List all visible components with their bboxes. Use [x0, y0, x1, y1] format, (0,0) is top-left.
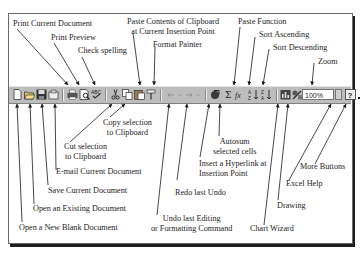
label-hyperlink-line2: Insertion Point [199, 169, 267, 179]
label-autosum-line1: Autosum [213, 137, 256, 147]
toolbar-separator [105, 89, 107, 101]
printer-icon[interactable] [67, 89, 78, 100]
label-paste-contents: Paste Contents of Clipboard at Current I… [127, 17, 219, 36]
paintbrush-icon[interactable] [146, 89, 157, 100]
svg-text:A: A [261, 96, 264, 101]
spell-check-icon[interactable]: ABC [91, 89, 102, 100]
label-sort-ascending: Sort Ascending [259, 30, 309, 40]
toolbar-separator [160, 89, 162, 101]
svg-text:A: A [248, 90, 251, 95]
label-copy-selection: Copy selection to Clipboard [103, 118, 152, 137]
email-icon[interactable] [48, 89, 59, 100]
label-autosum: Autosum selected cells [213, 137, 256, 156]
redo-arrow-icon[interactable] [184, 89, 202, 100]
undo-arrow-icon[interactable] [165, 89, 183, 100]
copy-icon[interactable] [122, 89, 133, 100]
label-cut-line1: Cut selection [64, 142, 107, 152]
label-paste-function: Paste Function [238, 17, 286, 27]
label-format-painter: Format Painter [153, 40, 202, 50]
label-autosum-line2: selected cells [213, 147, 256, 157]
label-insert-hyperlink: Insert a Hyperlink at Insertion Point [199, 159, 267, 178]
zoom-input[interactable]: 100% [302, 89, 334, 100]
fx-function-icon[interactable]: fx [235, 89, 246, 100]
svg-text:Z: Z [248, 96, 251, 101]
toolbar-separator [62, 89, 64, 101]
hyperlink-globe-icon[interactable] [210, 89, 221, 100]
standard-toolbar: ABC Σ fx AZ ZA 100% ? [9, 86, 351, 104]
label-drawing: Drawing [277, 201, 306, 211]
label-print-preview: Print Preview [51, 33, 96, 43]
sort-ascending-icon[interactable]: AZ [248, 89, 260, 100]
label-copy-line1: Copy selection [103, 118, 152, 128]
label-copy-line2: to Clipboard [103, 128, 152, 138]
sigma-icon[interactable]: Σ [223, 89, 234, 100]
svg-text:fx: fx [235, 91, 241, 100]
label-cut-selection: Cut selection to Clipboard [64, 142, 107, 161]
label-sort-descending: Sort Descending [273, 43, 327, 53]
open-folder-icon[interactable] [24, 89, 35, 100]
help-question-icon[interactable]: ? [345, 89, 356, 100]
label-more-buttons: More Buttons [300, 162, 345, 172]
label-open-document: Open an Existing Document [33, 204, 126, 214]
paste-clipboard-icon[interactable] [134, 89, 145, 100]
label-hyperlink-line1: Insert a Hyperlink at [199, 159, 267, 169]
label-paste-line1: Paste Contents of Clipboard [127, 17, 219, 27]
label-cut-line2: to Clipboard [64, 152, 107, 162]
more-buttons-icon[interactable] [357, 89, 362, 100]
sort-descending-icon[interactable]: ZA [261, 89, 273, 100]
new-document-icon[interactable] [12, 89, 23, 100]
label-chart-wizard: Chart Wizard [250, 224, 294, 234]
label-new-document: Open a New Blank Document [19, 223, 118, 233]
save-disk-icon[interactable] [36, 89, 47, 100]
label-paste-line2: at Current Insertion Point [127, 27, 219, 37]
label-undo-line2: or Formatting Command [151, 224, 232, 234]
chart-wizard-icon[interactable] [280, 89, 291, 100]
label-undo: Undo last Editing or Formatting Command [151, 214, 232, 233]
label-undo-line1: Undo last Editing [151, 214, 232, 224]
svg-text:Σ: Σ [225, 90, 231, 100]
toolbar-separator [205, 89, 207, 101]
svg-text:?: ? [348, 91, 353, 100]
label-redo: Redo last Undo [175, 188, 226, 198]
label-save-document: Save Current Document [48, 186, 127, 196]
toolbar-separator [276, 89, 278, 101]
scissors-icon[interactable] [110, 89, 121, 100]
label-zoom: Zoom [318, 57, 338, 67]
print-preview-icon[interactable] [79, 89, 90, 100]
label-excel-help: Excel Help [286, 179, 323, 189]
label-print-current-document: Print Current Document [13, 19, 92, 29]
svg-text:Z: Z [261, 90, 264, 95]
label-email-document: E-mail Current Document [56, 167, 142, 177]
label-check-spelling: Check spelling [78, 46, 127, 56]
zoom-dropdown-icon[interactable] [335, 89, 342, 100]
